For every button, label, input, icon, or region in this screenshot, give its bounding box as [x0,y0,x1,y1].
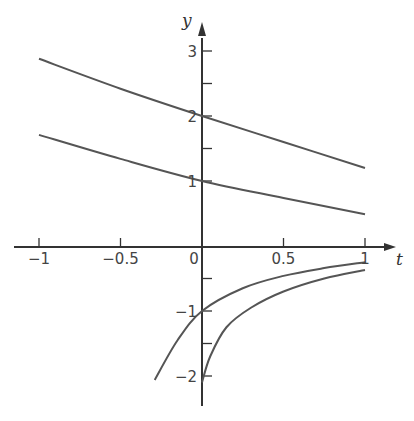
y-tick-label: 3 [187,43,197,61]
axes [14,22,396,406]
x-tick-label: −1 [28,250,50,268]
solution-curves-chart: −1−0.500.51123−1−2 t y [0,0,414,421]
y-axis-label: y [181,10,192,30]
y-tick-label: 1 [187,173,197,191]
x-axis-label: t [396,249,403,269]
solution-curve [202,270,365,382]
solution-curve [155,262,365,380]
y-tick-label: 2 [187,108,197,126]
y-tick-label: −1 [175,303,197,321]
x-axis-arrow-icon [384,243,396,251]
x-tick-label: −0.5 [102,250,138,268]
x-tick-label: 0.5 [272,250,296,268]
tick-labels: −1−0.500.51123−1−2 [28,43,370,386]
x-tick-label: 1 [360,250,370,268]
y-axis-arrow-icon [198,22,206,36]
y-tick-label: −2 [175,368,197,386]
x-tick-label: 0 [189,250,199,268]
